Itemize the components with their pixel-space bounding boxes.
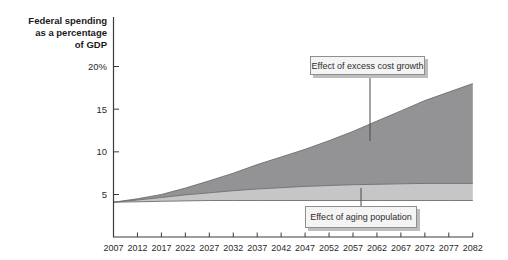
excess-cost-growth-callout: Effect of excess cost growth: [310, 56, 425, 75]
baseline-boundary-line: [114, 201, 473, 203]
chart-title-line-2: as a percentage: [35, 27, 107, 38]
x-axis-year-label: 2037: [247, 243, 267, 253]
x-axis-year-label: 2032: [223, 243, 243, 253]
chart-title-line-3: of GDP: [75, 39, 108, 50]
x-axis-year-label: 2022: [175, 243, 195, 253]
x-axis-year-label: 2017: [151, 243, 171, 253]
aging-population-callout: Effect of aging population: [305, 206, 417, 228]
chart-title: Federal spending as a percentage of GDP: [28, 15, 107, 50]
x-axis-year-label: 2082: [463, 243, 483, 253]
federal-spending-figure: 20%1510520072012201720222027203220372042…: [0, 0, 508, 260]
x-axis-year-label: 2047: [295, 243, 315, 253]
x-axis-year-label: 2072: [415, 243, 435, 253]
x-axis-year-label: 2067: [391, 243, 411, 253]
chart-title-line-1: Federal spending: [28, 15, 107, 26]
x-axis-year-label: 2012: [127, 243, 147, 253]
y-axis-tick-label: 15: [96, 104, 107, 115]
x-axis-year-label: 2057: [343, 243, 363, 253]
spending-chart: 20%1510520072012201720222027203220372042…: [0, 0, 508, 260]
x-axis-year-label: 2007: [103, 243, 123, 253]
excess-cost-growth-label: Effect of excess cost growth: [312, 61, 424, 71]
y-axis-tick-label: 5: [102, 189, 107, 200]
chart-areas: [114, 84, 473, 203]
x-axis-year-label: 2077: [439, 243, 459, 253]
y-axis-tick-label: 10: [96, 146, 107, 157]
x-axis-year-label: 2062: [367, 243, 387, 253]
x-axis-year-label: 2052: [319, 243, 339, 253]
aging-population-label: Effect of aging population: [310, 212, 411, 222]
y-axis-tick-label: 20%: [88, 61, 108, 72]
x-axis-year-label: 2042: [271, 243, 291, 253]
x-axis-year-label: 2027: [199, 243, 219, 253]
